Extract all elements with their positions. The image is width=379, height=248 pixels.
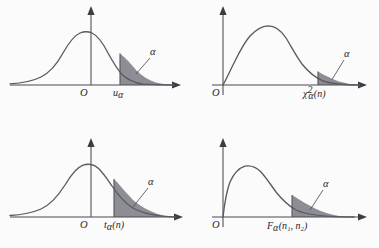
t-distribution-panel: O tα(n) α [0, 124, 189, 248]
shaded-tail-region [318, 72, 360, 86]
alpha-leader-line [332, 60, 344, 80]
critical-value-argument: (n₁, n₂) [279, 220, 308, 232]
density-curve [223, 166, 354, 217]
alpha-label: α [148, 176, 154, 187]
critical-value-label: χ2α(n) [302, 84, 326, 101]
figure-container: O uα α O χ2α(n) α [0, 0, 379, 248]
x-axis-arrow-icon [358, 213, 367, 220]
critical-value-label: uα [113, 87, 124, 100]
shaded-tail-region [114, 179, 176, 217]
density-curve [223, 26, 360, 85]
origin-label: O [212, 219, 220, 230]
alpha-leader-line [310, 190, 323, 210]
alpha-leader-line [136, 58, 150, 74]
critical-value-argument: (n) [112, 219, 124, 231]
density-curve [10, 164, 176, 217]
y-axis-arrow-icon [87, 138, 94, 147]
y-axis-arrow-icon [219, 6, 226, 15]
critical-value-subscript: α [118, 89, 124, 100]
shaded-tail-region [120, 54, 174, 86]
critical-value-argument: (n) [314, 88, 326, 100]
standard-normal-panel: O uα α [0, 0, 189, 124]
chi-square-panel: O χ2α(n) α [190, 0, 379, 124]
critical-value-label: tα(n) [104, 219, 125, 232]
critical-value-label: Fα(n₁, n₂) [266, 220, 308, 233]
y-axis-arrow-icon [219, 138, 226, 147]
alpha-leader-line [133, 188, 148, 207]
alpha-label: α [344, 48, 350, 59]
origin-label: O [80, 219, 88, 230]
f-distribution-panel: O Fα(n₁, n₂) α [190, 124, 379, 248]
alpha-label: α [150, 46, 156, 57]
alpha-label: α [323, 178, 329, 189]
origin-label: O [212, 87, 220, 98]
shaded-tail-region [292, 195, 354, 217]
y-axis-arrow-icon [87, 6, 94, 15]
origin-label: O [80, 87, 88, 98]
